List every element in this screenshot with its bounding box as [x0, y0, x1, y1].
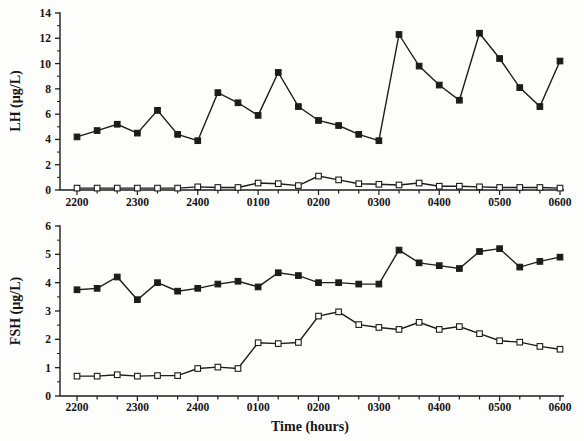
filled-square-marker — [356, 132, 362, 138]
filled-square-marker — [175, 132, 181, 138]
open-square-marker — [275, 341, 281, 347]
filled-square-marker — [155, 108, 161, 114]
filled-square-marker — [74, 134, 80, 140]
y-tick-label: 12 — [40, 32, 52, 44]
filled-square-marker — [517, 264, 523, 270]
filled-square-marker — [94, 128, 100, 134]
filled-square-marker — [94, 286, 100, 292]
fsh-open-square-line — [77, 312, 560, 376]
filled-square-marker — [396, 247, 402, 253]
filled-square-marker — [275, 270, 281, 276]
filled-square-marker — [376, 138, 382, 144]
filled-square-marker — [175, 288, 181, 294]
filled-square-marker — [557, 254, 563, 260]
open-square-marker — [235, 185, 241, 191]
open-square-marker — [135, 373, 141, 379]
open-square-marker — [135, 185, 141, 191]
y-tick-label: 10 — [40, 58, 52, 70]
open-square-marker — [356, 322, 362, 328]
y-tick-label: 8 — [45, 83, 51, 95]
y-tick-label: 14 — [40, 7, 52, 19]
open-square-marker — [336, 309, 342, 315]
x-tick-label: 0200 — [307, 196, 330, 208]
filled-square-marker — [255, 284, 261, 290]
x-tick-label: 0300 — [367, 196, 390, 208]
filled-square-marker — [537, 259, 543, 265]
open-square-marker — [457, 324, 463, 330]
filled-square-marker — [296, 104, 302, 110]
open-square-marker — [497, 338, 503, 344]
fsh-filled-square-line — [77, 249, 560, 300]
filled-square-marker — [557, 58, 563, 64]
open-square-marker — [296, 183, 302, 189]
lh-filled-square-line — [77, 33, 560, 140]
open-square-marker — [477, 331, 483, 337]
filled-square-marker — [436, 82, 442, 88]
y-tick-label: 5 — [45, 248, 51, 260]
open-square-marker — [376, 182, 382, 188]
open-square-marker — [195, 184, 201, 190]
filled-square-marker — [477, 30, 483, 36]
open-square-marker — [316, 313, 322, 319]
open-square-marker — [175, 373, 181, 379]
x-tick-label: 0500 — [488, 401, 511, 413]
filled-square-marker — [356, 281, 362, 287]
filled-square-marker — [336, 123, 342, 129]
open-square-marker — [114, 185, 120, 191]
open-square-marker — [94, 185, 100, 191]
open-square-marker — [74, 373, 80, 379]
open-square-marker — [537, 344, 543, 350]
fsh-open-square-series — [74, 309, 563, 379]
open-square-marker — [316, 173, 322, 179]
filled-square-marker — [195, 286, 201, 292]
filled-square-marker — [135, 297, 141, 303]
filled-square-marker — [497, 246, 503, 252]
open-square-marker — [296, 340, 302, 346]
x-axis-title: Time (hours) — [271, 419, 349, 435]
filled-square-marker — [215, 90, 221, 96]
x-tick-label: 0100 — [247, 401, 270, 413]
filled-square-marker — [114, 121, 120, 127]
filled-square-marker — [296, 273, 302, 279]
filled-square-marker — [376, 281, 382, 287]
open-square-marker — [336, 177, 342, 183]
open-square-marker — [114, 372, 120, 378]
filled-square-marker — [135, 130, 141, 136]
x-tick-label: 0400 — [428, 401, 451, 413]
lh-panel: 0246810121422002300240001000200030004000… — [40, 7, 572, 208]
open-square-marker — [537, 185, 543, 191]
filled-square-marker — [255, 113, 261, 119]
filled-square-marker — [235, 100, 241, 106]
filled-square-marker — [396, 32, 402, 38]
filled-square-marker — [275, 70, 281, 76]
open-square-marker — [396, 327, 402, 333]
open-square-marker — [155, 373, 161, 379]
x-tick-label: 2400 — [186, 401, 209, 413]
open-square-marker — [457, 183, 463, 189]
y-tick-label: 2 — [45, 159, 51, 171]
x-tick-label: 0600 — [549, 401, 572, 413]
x-tick-label: 0300 — [367, 401, 390, 413]
filled-square-marker — [436, 263, 442, 269]
open-square-marker — [557, 185, 563, 191]
fsh-filled-square-series — [74, 246, 563, 303]
open-square-marker — [436, 183, 442, 189]
y-tick-label: 0 — [45, 184, 51, 196]
filled-square-marker — [316, 280, 322, 286]
open-square-marker — [517, 185, 523, 191]
filled-square-marker — [336, 280, 342, 286]
lh-open-square-series — [74, 173, 563, 191]
filled-square-marker — [74, 287, 80, 293]
open-square-marker — [255, 180, 261, 186]
x-tick-label: 2200 — [66, 401, 89, 413]
fsh-y-axis-title: FSH (µg/L) — [8, 276, 24, 345]
x-tick-label: 2200 — [66, 196, 89, 208]
open-square-marker — [155, 185, 161, 191]
filled-square-marker — [416, 63, 422, 69]
filled-square-marker — [416, 260, 422, 266]
open-square-marker — [376, 325, 382, 331]
y-tick-label: 3 — [45, 305, 51, 317]
filled-square-marker — [457, 97, 463, 103]
y-tick-label: 4 — [45, 277, 51, 289]
open-square-marker — [235, 366, 241, 372]
